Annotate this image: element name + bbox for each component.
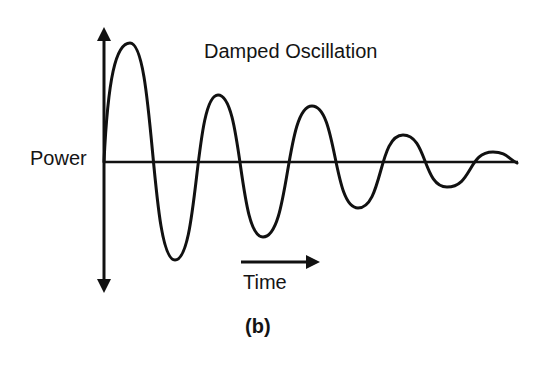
figure-caption: (b) [245,315,271,338]
right-arrow-icon [306,255,320,269]
y-axis-label-power: Power [30,147,87,170]
axes [97,27,518,293]
diagram-title: Damped Oscillation [204,40,377,63]
up-arrow-icon [97,27,111,41]
down-arrow-icon [97,279,111,293]
oscillation-curve [104,43,517,260]
x-axis-label-time: Time [243,271,287,294]
time-arrow [241,255,320,269]
